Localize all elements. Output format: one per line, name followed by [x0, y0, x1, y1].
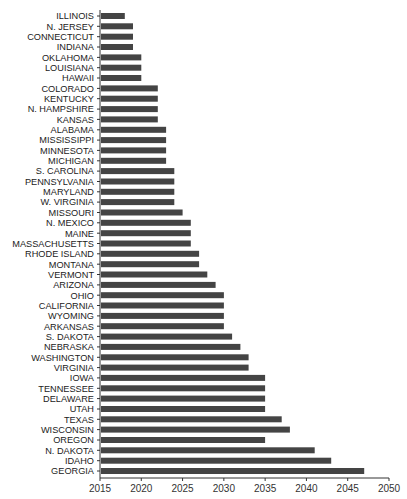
- bar: [101, 65, 141, 71]
- category-label: N. HAMPSHIRE: [28, 104, 94, 114]
- bar: [101, 189, 174, 195]
- category-label: MISSOURI: [49, 208, 94, 218]
- x-tick-label: 2015: [89, 483, 112, 494]
- bar: [101, 168, 174, 174]
- horizontal-bar-chart: ILLINOISN. JERSEYCONNECTICUTINDIANAOKLAH…: [0, 0, 407, 499]
- category-label: COLORADO: [41, 84, 94, 94]
- bar: [101, 23, 133, 29]
- category-label: KANSAS: [57, 115, 94, 125]
- bar: [101, 34, 133, 40]
- category-label: MINNESOTA: [40, 146, 95, 156]
- category-label: CALIFORNIA: [39, 301, 95, 311]
- category-label: WISCONSIN: [41, 425, 94, 435]
- category-label: ARIZONA: [53, 280, 95, 290]
- x-tick-label: 2030: [213, 483, 236, 494]
- category-label: MARYLAND: [43, 187, 94, 197]
- category-label: OHIO: [71, 291, 94, 301]
- bar: [101, 44, 133, 50]
- bar: [101, 230, 191, 236]
- bar: [101, 468, 364, 474]
- bar: [101, 54, 141, 60]
- category-label: RHODE ISLAND: [25, 249, 94, 259]
- bar: [101, 416, 282, 422]
- category-label: VIRGINIA: [54, 363, 95, 373]
- category-label: N. MEXICO: [46, 218, 94, 228]
- category-label: ARKANSAS: [44, 322, 94, 332]
- bar: [101, 365, 249, 371]
- bar: [101, 437, 265, 443]
- category-label: N. JERSEY: [47, 22, 94, 32]
- category-label: NEBRASKA: [44, 342, 95, 352]
- category-label: N. DAKOTA: [45, 446, 95, 456]
- category-label: OREGON: [53, 435, 94, 445]
- category-label: DELAWARE: [43, 394, 94, 404]
- bar: [101, 75, 141, 81]
- bar: [101, 116, 158, 122]
- bar: [101, 137, 166, 143]
- category-label: IOWA: [70, 373, 95, 383]
- bar: [101, 282, 216, 288]
- bar: [101, 334, 232, 340]
- x-tick-label: 2020: [130, 483, 153, 494]
- category-label: KENTUCKY: [44, 94, 94, 104]
- x-tick-label: 2025: [171, 483, 194, 494]
- x-axis: 20152020202520302035204020452050: [89, 478, 401, 494]
- bar: [101, 344, 240, 350]
- bar: [101, 458, 331, 464]
- bar: [101, 13, 125, 19]
- bar: [101, 292, 224, 298]
- x-tick-label: 2045: [337, 483, 360, 494]
- bar: [101, 375, 265, 381]
- x-tick-label: 2050: [378, 483, 401, 494]
- category-label: MAINE: [65, 229, 94, 239]
- bars-group: [101, 13, 364, 474]
- bar: [101, 427, 290, 433]
- bar: [101, 106, 158, 112]
- bar: [101, 406, 265, 412]
- bar: [101, 251, 199, 257]
- bar: [101, 323, 224, 329]
- category-label: LOUISIANA: [45, 63, 95, 73]
- bar: [101, 272, 207, 278]
- category-label: CONNECTICUT: [27, 32, 94, 42]
- category-label: GEORGIA: [51, 466, 95, 476]
- bar: [101, 313, 224, 319]
- bar: [101, 158, 166, 164]
- category-label: INDIANA: [57, 42, 95, 52]
- category-label: MONTANA: [49, 260, 95, 270]
- category-label: VERMONT: [48, 270, 94, 280]
- bar: [101, 303, 224, 309]
- bar: [101, 447, 315, 453]
- category-label: MICHIGAN: [48, 156, 94, 166]
- bar: [101, 261, 199, 267]
- category-label: TENNESSEE: [38, 384, 94, 394]
- category-label: ALABAMA: [51, 125, 95, 135]
- category-label: S. CAROLINA: [36, 166, 95, 176]
- category-label: HAWAII: [62, 73, 94, 83]
- y-axis: [97, 10, 100, 478]
- bar: [101, 147, 166, 153]
- category-labels: ILLINOISN. JERSEYCONNECTICUTINDIANAOKLAH…: [12, 11, 95, 476]
- bar: [101, 385, 265, 391]
- bar: [101, 220, 191, 226]
- bar: [101, 179, 174, 185]
- category-label: S. DAKOTA: [46, 332, 95, 342]
- category-label: UTAH: [70, 404, 94, 414]
- category-label: PENNSYLVANIA: [25, 177, 95, 187]
- bar: [101, 241, 191, 247]
- category-label: WYOMING: [48, 311, 94, 321]
- category-label: W. VIRGINIA: [40, 197, 94, 207]
- category-label: MASSACHUSETTS: [12, 239, 94, 249]
- bar: [101, 354, 249, 360]
- category-label: MISSISSIPPI: [39, 135, 94, 145]
- x-tick-label: 2040: [295, 483, 318, 494]
- bar: [101, 210, 183, 216]
- x-tick-label: 2035: [254, 483, 277, 494]
- bar: [101, 127, 166, 133]
- category-label: WASHINGTON: [31, 353, 94, 363]
- category-label: TEXAS: [64, 415, 94, 425]
- category-label: IDAHO: [65, 456, 94, 466]
- bar: [101, 96, 158, 102]
- bar: [101, 85, 158, 91]
- bar: [101, 396, 265, 402]
